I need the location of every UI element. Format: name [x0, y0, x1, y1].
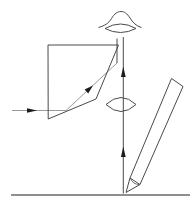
object-ray-arrow — [27, 108, 37, 113]
eye-eyelid-curve — [99, 12, 142, 28]
eye-lens-shape — [105, 24, 136, 33]
pencil-body — [130, 79, 183, 185]
axis-arrow-upper — [121, 67, 126, 78]
lens-biconvex — [106, 98, 136, 112]
diagram-canvas — [0, 0, 192, 208]
screenshot-root — [0, 0, 192, 208]
axis-arrow-lower — [121, 147, 126, 158]
prism-outline — [48, 45, 119, 119]
